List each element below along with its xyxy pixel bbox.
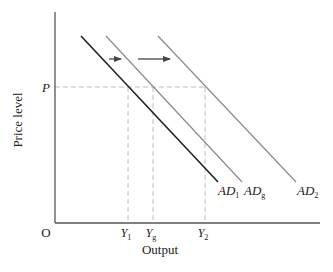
ad1-curve: [81, 36, 218, 182]
y-axis-label: Price level: [10, 92, 25, 148]
ad1-label: AD1: [217, 183, 239, 200]
yg-tick-label: Yg: [146, 226, 157, 242]
adg-curve: [106, 36, 242, 182]
x-axis-label: Output: [142, 242, 179, 257]
ad2-curve: [158, 36, 296, 182]
adg-label: ADg: [243, 183, 265, 200]
origin-label: O: [41, 225, 50, 240]
ad2-main: AD: [296, 183, 315, 198]
y2-tick-label: Y2: [198, 226, 209, 242]
ad2-label: AD2: [296, 183, 318, 200]
reference-lines: [55, 87, 205, 223]
yg-sub: g: [152, 233, 156, 242]
y1-tick-label: Y1: [121, 226, 132, 242]
price-p-label: P: [41, 80, 50, 95]
ad1-main: AD: [217, 183, 236, 198]
y1-sub: 1: [127, 233, 131, 242]
y2-sub: 2: [204, 233, 208, 242]
ad1-sub: 1: [235, 191, 239, 200]
adg-sub: g: [261, 191, 265, 200]
aggregate-demand-chart: Price level Output O P Y1 Yg Y2 AD1 ADg …: [0, 0, 333, 272]
adg-main: AD: [243, 183, 262, 198]
ad2-sub: 2: [314, 191, 318, 200]
